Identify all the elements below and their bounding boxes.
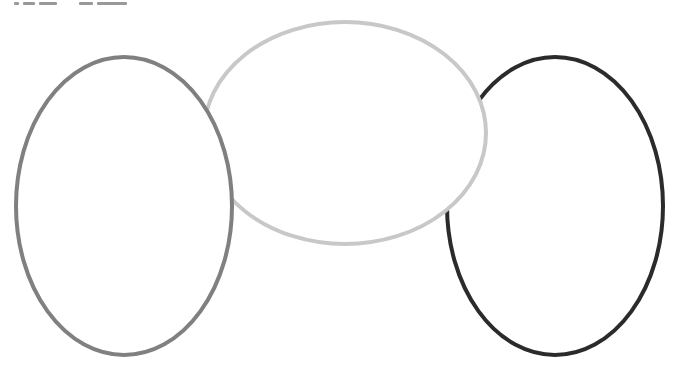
diagram-canvas <box>0 0 681 377</box>
ellipse-middle <box>204 22 486 244</box>
ellipse-left <box>16 57 232 355</box>
